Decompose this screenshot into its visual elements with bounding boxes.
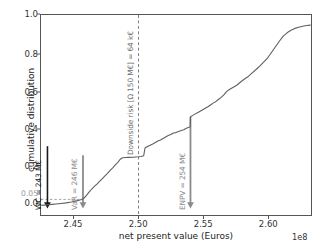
- plot-area: WC = 243 M€ VaR = 246 M€ Downside risk […: [40, 14, 312, 216]
- x-tick-label: 2.60: [259, 219, 278, 229]
- annotation-label-downside-risk: Downside risk [Ω 150 M€] = 64 k€: [126, 31, 135, 155]
- annotation-arrow-enpv: [187, 117, 194, 209]
- annotation-arrow-wc: [44, 146, 51, 208]
- annotation-label-wc: WC = 243 M€: [34, 160, 43, 210]
- annotation-label-var: VaR = 246 M€: [70, 159, 79, 210]
- x-tick-label: 2.50: [129, 219, 148, 229]
- x-tick-mark: [268, 216, 269, 219]
- x-tick-label: 2.45: [64, 219, 83, 229]
- x-tick-mark: [203, 216, 204, 219]
- x-axis-exponent-label: 1e8: [292, 232, 307, 242]
- x-tick-mark: [138, 216, 139, 219]
- annotation-arrow-var: [80, 155, 87, 208]
- cdf-curve: [42, 25, 311, 205]
- cdf-curve-svg: [41, 15, 311, 215]
- x-axis-title: net present value (Euros): [40, 231, 312, 241]
- annotation-label-enpv: ENPV = 254 M€: [178, 153, 187, 210]
- cdf-chart-figure: 1.0 0.8 0.6 0.4 0.2 0.05 0.0 cumulative …: [0, 0, 323, 250]
- x-tick-label: 2.55: [194, 219, 213, 229]
- x-tick-mark: [73, 216, 74, 219]
- y-tick-label: 1.0: [0, 9, 38, 19]
